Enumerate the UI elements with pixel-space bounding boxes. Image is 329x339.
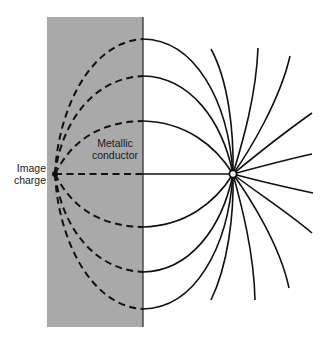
conductor-label-line1: Metallic xyxy=(84,137,146,149)
field-line-diagram xyxy=(0,0,329,339)
image-charge-label-line1: Image xyxy=(2,162,46,174)
conductor-label-line2: conductor xyxy=(84,149,146,161)
image-charge-label-line2: charge xyxy=(2,174,46,186)
image-charge-dot xyxy=(52,171,58,177)
surface-field-lines xyxy=(143,39,233,309)
conductor-label: Metallic conductor xyxy=(84,137,146,161)
real-charge xyxy=(229,170,236,177)
image-charge-label: Image charge xyxy=(2,162,46,186)
